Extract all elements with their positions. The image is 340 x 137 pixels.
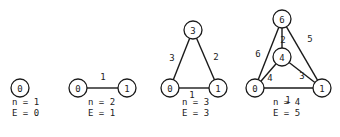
node-count-caption: n = 3 <box>182 97 209 107</box>
node-count-caption: n = 1 <box>12 97 39 107</box>
edge <box>197 38 215 79</box>
edge-weight-label: 2 <box>213 52 218 62</box>
edge-weight-label: 3 <box>299 71 304 81</box>
node-label: 0 <box>167 84 172 94</box>
edge-weight-label: 1 <box>100 72 105 82</box>
node-label: 1 <box>215 84 220 94</box>
node-label: 0 <box>17 84 22 94</box>
node-label: 3 <box>190 26 195 36</box>
graph-g2: 101n = 2E = 1 <box>69 72 136 118</box>
node-count-caption: n = 2 <box>88 97 115 107</box>
node-label: 1 <box>124 84 129 94</box>
graph-g3: 321301n = 3E = 3 <box>161 21 227 118</box>
node-label: 1 <box>319 84 324 94</box>
node-count-caption: n = 4 <box>273 97 300 107</box>
graph-g4: 6254316401n = 4E = 5 <box>246 10 331 118</box>
edge-weight-label: 2 <box>280 35 285 45</box>
edge-weight-label: 4 <box>267 73 272 83</box>
node-label: 0 <box>252 84 257 94</box>
node-label: 4 <box>279 53 284 63</box>
edge-count-caption: E = 1 <box>88 108 115 118</box>
edge-weight-label: 5 <box>307 34 312 44</box>
edge-weight-label: 3 <box>169 53 174 63</box>
edge-count-caption: E = 3 <box>182 108 209 118</box>
node-label: 6 <box>279 15 284 25</box>
edge-count-caption: E = 5 <box>273 108 300 118</box>
edge-weight-label: 6 <box>255 49 260 59</box>
node-label: 0 <box>75 84 80 94</box>
graph-diagram: 0n = 1E = 0101n = 2E = 1321301n = 3E = 3… <box>0 0 340 137</box>
graph-g1: 0n = 1E = 0 <box>11 79 39 118</box>
edge-count-caption: E = 0 <box>12 108 39 118</box>
edge <box>173 38 189 79</box>
